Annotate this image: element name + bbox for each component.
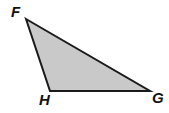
- triangle-figure: F H G: [0, 0, 169, 113]
- vertex-label-f: F: [11, 4, 20, 19]
- triangle-graphic: [0, 0, 169, 113]
- triangle-shape: [26, 19, 150, 91]
- vertex-label-g: G: [152, 90, 164, 105]
- vertex-label-h: H: [39, 92, 50, 107]
